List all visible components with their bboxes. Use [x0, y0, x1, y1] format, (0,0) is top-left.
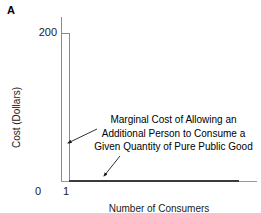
- x-tick-label-0: 0: [30, 185, 46, 197]
- panel-label: A: [7, 4, 15, 16]
- y-axis-line: [61, 17, 62, 182]
- marginal-cost-curve-vertical-drop: [69, 33, 70, 182]
- annotation-line-1: Marginal Cost of Allowing an: [86, 113, 261, 127]
- annotation-arrow-to-zero-segment: [104, 156, 120, 176]
- y-axis-title: Cost (Dollars): [11, 58, 22, 178]
- marginal-cost-curve-zero-segment: [69, 180, 239, 182]
- x-axis-title: Number of Consumers: [61, 203, 257, 213]
- figure-panel-a: A Cost (Dollars) Number of Consumers 200…: [0, 0, 261, 213]
- annotation-line-2: Additional Person to Consume a: [86, 127, 261, 141]
- x-tick-label-1: 1: [58, 185, 74, 197]
- marginal-cost-annotation: Marginal Cost of Allowing an Additional …: [86, 113, 261, 154]
- annotation-line-3: Given Quantity of Pure Public Good: [86, 140, 261, 154]
- y-tick-label-200: 200: [19, 26, 57, 38]
